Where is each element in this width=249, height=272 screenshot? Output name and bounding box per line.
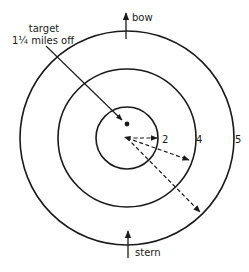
target-label-line2: 1¼ miles off: [12, 35, 75, 46]
range-ring-diagram: bow stern target 1¼ miles off 2 4 5: [0, 0, 249, 272]
ring-label-5: 5: [235, 134, 241, 145]
target-leader-arrow: [46, 46, 122, 120]
target-label-line1: target: [29, 23, 59, 34]
ring-label-2: 2: [162, 134, 168, 145]
range-arrow-5: [127, 138, 200, 212]
stern-label: stern: [135, 247, 161, 258]
ring-label-4: 4: [196, 134, 202, 145]
target-dot: [125, 122, 130, 127]
bow-label: bow: [132, 12, 153, 23]
